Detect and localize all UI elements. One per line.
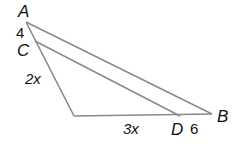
segment-AB bbox=[26, 22, 212, 114]
segment-label-CE: 2x bbox=[24, 70, 41, 87]
segment-label-DB: 6 bbox=[190, 120, 198, 137]
segment-AE bbox=[26, 22, 74, 116]
triangle-diagram: A C D B 4 2x 3x 6 bbox=[0, 0, 236, 146]
point-label-B: B bbox=[217, 107, 228, 126]
segment-EB bbox=[74, 114, 212, 116]
segment-label-AC: 4 bbox=[16, 24, 24, 41]
point-label-A: A bbox=[17, 2, 29, 21]
segment-CD bbox=[35, 41, 180, 116]
point-label-D: D bbox=[171, 120, 183, 139]
segment-label-ED: 3x bbox=[123, 120, 139, 137]
point-label-C: C bbox=[17, 41, 30, 60]
